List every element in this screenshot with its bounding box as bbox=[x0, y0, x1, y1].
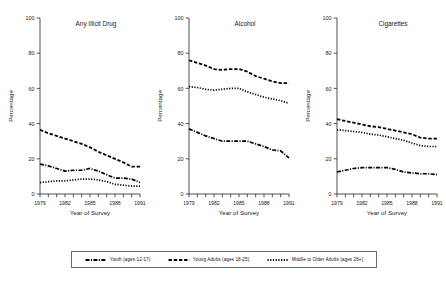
x-tick-label: 1991 bbox=[134, 200, 146, 206]
x-tick-label: 1988 bbox=[258, 200, 270, 206]
x-tick-label: 1985 bbox=[233, 200, 245, 206]
y-tick-label: 60 bbox=[326, 86, 332, 92]
data-series-line bbox=[189, 60, 289, 83]
legend-line-icon bbox=[85, 257, 107, 263]
legend-item: Middle to Older Adults (ages 26+) bbox=[267, 257, 364, 263]
y-tick-label: 60 bbox=[177, 86, 183, 92]
figure-root: 02040608010019791982198519881991Any Illi… bbox=[0, 0, 446, 284]
legend-item: Young Adults (ages 18-25) bbox=[168, 257, 249, 263]
data-series-line bbox=[40, 130, 140, 167]
panel-row: 02040608010019791982198519881991Any Illi… bbox=[0, 0, 446, 240]
y-tick-label: 100 bbox=[26, 15, 35, 21]
chart-panel: 02040608010019791982198519881991Cigarett… bbox=[297, 0, 446, 240]
y-tick-label: 100 bbox=[174, 15, 183, 21]
legend-item-label: Middle to Older Adults (ages 26+) bbox=[292, 257, 364, 263]
chart-panel: 02040608010019791982198519881991Any Illi… bbox=[0, 0, 149, 240]
data-series-line bbox=[189, 87, 289, 104]
panel-title: Cigarettes bbox=[379, 20, 408, 28]
panel-title: Alcohol bbox=[234, 20, 255, 27]
y-tick-label: 0 bbox=[329, 191, 332, 197]
y-tick-label: 60 bbox=[29, 86, 35, 92]
x-axis-label: Year of Survey bbox=[70, 209, 111, 216]
data-series-line bbox=[40, 164, 140, 182]
legend-line-icon bbox=[168, 257, 190, 263]
x-tick-label: 1979 bbox=[331, 200, 343, 206]
y-tick-label: 20 bbox=[177, 156, 183, 162]
chart-panel: 02040608010019791982198519881991AlcoholP… bbox=[149, 0, 298, 240]
data-series-line bbox=[337, 130, 437, 147]
y-tick-label: 20 bbox=[326, 156, 332, 162]
y-tick-label: 0 bbox=[32, 191, 35, 197]
y-axis-label: Percentage bbox=[7, 90, 14, 122]
data-series-line bbox=[189, 129, 289, 158]
x-tick-label: 1982 bbox=[356, 200, 368, 206]
y-tick-label: 100 bbox=[323, 15, 332, 21]
panel-title: Any Illicit Drug bbox=[76, 20, 117, 28]
y-tick-label: 40 bbox=[29, 121, 35, 127]
chart-panel-svg: 02040608010019791982198519881991Cigarett… bbox=[297, 0, 445, 240]
y-tick-label: 0 bbox=[180, 191, 183, 197]
data-series-line bbox=[337, 119, 437, 138]
data-series-line bbox=[337, 168, 437, 175]
x-tick-label: 1985 bbox=[381, 200, 393, 206]
y-tick-label: 40 bbox=[326, 121, 332, 127]
legend-item-label: Youth (ages 12-17) bbox=[110, 257, 151, 263]
chart-panel-svg: 02040608010019791982198519881991Any Illi… bbox=[0, 0, 148, 240]
x-tick-label: 1982 bbox=[59, 200, 71, 206]
x-tick-label: 1982 bbox=[208, 200, 220, 206]
x-tick-label: 1988 bbox=[109, 200, 121, 206]
y-tick-label: 80 bbox=[177, 50, 183, 56]
legend-item: Youth (ages 12-17) bbox=[85, 257, 151, 263]
x-axis-label: Year of Survey bbox=[218, 209, 259, 216]
chart-panel-svg: 02040608010019791982198519881991AlcoholP… bbox=[149, 0, 297, 240]
y-axis-label: Percentage bbox=[155, 90, 162, 122]
x-tick-label: 1979 bbox=[183, 200, 195, 206]
legend: Youth (ages 12-17) Young Adults (ages 18… bbox=[71, 251, 377, 268]
y-tick-label: 40 bbox=[177, 121, 183, 127]
y-axis-label: Percentage bbox=[304, 90, 311, 122]
x-tick-label: 1991 bbox=[283, 200, 295, 206]
x-tick-label: 1985 bbox=[84, 200, 96, 206]
x-tick-label: 1988 bbox=[406, 200, 418, 206]
legend-item-label: Young Adults (ages 18-25) bbox=[193, 257, 249, 263]
x-axis-label: Year of Survey bbox=[367, 209, 408, 216]
y-tick-label: 80 bbox=[29, 50, 35, 56]
x-tick-label: 1979 bbox=[34, 200, 46, 206]
x-tick-label: 1991 bbox=[431, 200, 443, 206]
y-tick-label: 80 bbox=[326, 50, 332, 56]
y-tick-label: 20 bbox=[29, 156, 35, 162]
legend-line-icon bbox=[267, 257, 289, 263]
data-series-line bbox=[40, 179, 140, 186]
